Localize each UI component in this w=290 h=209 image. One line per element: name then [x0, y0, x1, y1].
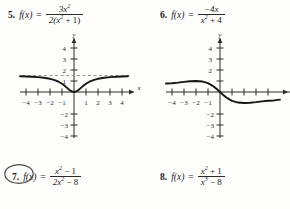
function-label: f(x) — [171, 10, 184, 20]
problem-number: 8. — [160, 172, 167, 182]
xtick-label: −1 — [204, 99, 212, 107]
ytick-label: −2 — [207, 111, 215, 119]
problem-8: 8. f(x) = x2 + 1 x3 − 8 — [160, 167, 225, 188]
problem-6: 6. f(x) = −4x x2 + 4 — [160, 5, 225, 26]
equals-sign: = — [36, 10, 41, 20]
equals-sign: = — [40, 172, 45, 182]
problem-number: 7. — [12, 172, 19, 182]
ytick-label: 2 — [63, 67, 67, 75]
fraction: −4x x2 + 4 — [198, 5, 225, 26]
xtick-label: −4 — [168, 99, 176, 107]
function-label: f(x) — [19, 10, 32, 20]
fraction-denominator: 2x2 − 8 — [50, 177, 82, 187]
graph-5-svg: −4 −3 −2 −1 1 2 3 4 4 3 2 1 −2 −3 −4 x y — [12, 30, 144, 142]
ytick-label: 2 — [209, 67, 213, 75]
fraction-denominator: x3 − 8 — [198, 177, 225, 187]
fraction-numerator: x2 − 1 — [52, 167, 79, 177]
graph-6-axes — [166, 38, 290, 138]
xtick-label: −3 — [34, 99, 42, 107]
problem-number: 5. — [8, 10, 15, 20]
ytick-label: 3 — [63, 56, 67, 64]
xtick-label: −1 — [58, 99, 66, 107]
problem-number: 6. — [160, 10, 167, 20]
x-axis-label: x — [136, 84, 141, 92]
xtick-label: 2 — [96, 99, 100, 107]
equals-sign: = — [188, 10, 193, 20]
fraction: x2 + 1 x3 − 8 — [198, 167, 225, 188]
fraction: 3x2 2(x2 + 1) — [46, 5, 84, 26]
function-label: f(x) — [23, 172, 36, 182]
xtick-label: 1 — [84, 99, 88, 107]
graph-5-axes — [20, 38, 134, 138]
xtick-label: 4 — [120, 99, 124, 107]
ytick-label: −4 — [207, 133, 215, 141]
graph-problem-6: −4 −3 −2 −1 4 3 2 −2 −3 −4 y — [158, 30, 290, 142]
worksheet-page: 5. f(x) = 3x2 2(x2 + 1) 6. f(x) = −4x x2… — [0, 0, 290, 209]
problem-5: 5. f(x) = 3x2 2(x2 + 1) — [8, 5, 83, 26]
y-axis-label: y — [71, 31, 76, 39]
fraction-denominator: x2 + 4 — [198, 15, 225, 25]
fraction-numerator: x2 + 1 — [198, 167, 225, 177]
xtick-label: −4 — [22, 99, 30, 107]
graph-problem-5: −4 −3 −2 −1 1 2 3 4 4 3 2 1 −2 −3 −4 x y — [12, 30, 144, 142]
ytick-label: −3 — [61, 122, 69, 130]
xtick-label: −2 — [46, 99, 54, 107]
xtick-label: 3 — [108, 99, 112, 107]
fraction-numerator: −4x — [201, 5, 222, 15]
fraction: x2 − 1 2x2 − 8 — [50, 167, 82, 188]
equals-sign: = — [188, 172, 193, 182]
ytick-label: 4 — [209, 45, 213, 53]
ytick-label: 3 — [209, 56, 213, 64]
xtick-label: −2 — [192, 99, 200, 107]
problem-7: 7. f(x) = x2 − 1 2x2 − 8 — [12, 167, 81, 188]
ytick-label: −3 — [207, 122, 215, 130]
ytick-label: −4 — [61, 133, 69, 141]
graph-6-svg: −4 −3 −2 −1 4 3 2 −2 −3 −4 y — [158, 30, 290, 142]
fraction-numerator: 3x2 — [56, 5, 74, 15]
ytick-label: −2 — [61, 111, 69, 119]
y-axis-label: y — [217, 31, 222, 39]
function-label: f(x) — [171, 172, 184, 182]
xtick-label: −3 — [180, 99, 188, 107]
ytick-label: 4 — [63, 45, 67, 53]
fraction-denominator: 2(x2 + 1) — [46, 15, 84, 25]
